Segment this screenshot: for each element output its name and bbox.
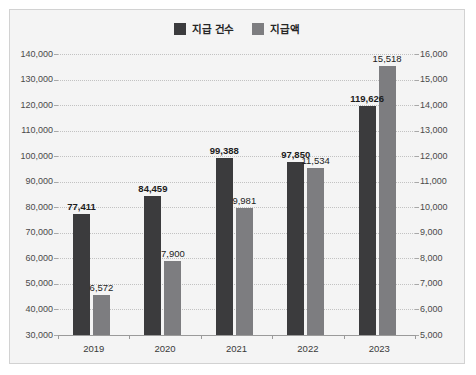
- bar-value-count-2020: 84,459: [138, 184, 167, 194]
- right-axis-tick-label: 11,000: [420, 177, 464, 186]
- x-axis-label-2023: 2023: [344, 343, 415, 354]
- plot-area: 140,00016,000130,00015,000120,00014,0001…: [58, 54, 415, 335]
- x-axis-label-2021: 2021: [201, 343, 272, 354]
- bar-count-2021[interactable]: [216, 158, 233, 335]
- left-axis-tick-label: 100,000: [9, 152, 53, 161]
- x-axis-label-2022: 2022: [272, 343, 343, 354]
- bar-value-amount-2019: 6,572: [90, 283, 114, 293]
- left-axis-tick-label: 30,000: [9, 331, 53, 340]
- bar-count-2022[interactable]: [287, 162, 304, 335]
- bar-count-2020[interactable]: [144, 196, 161, 335]
- chart-legend: 지급 건수지급액: [10, 21, 464, 36]
- legend-swatch-icon-0: [174, 23, 186, 35]
- x-axis-tickmark: [344, 335, 345, 339]
- right-axis-tickmark: [415, 207, 419, 208]
- bar-amount-2019[interactable]: [93, 295, 110, 335]
- x-axis-tickmark: [201, 335, 202, 339]
- bar-amount-2023[interactable]: [379, 66, 396, 335]
- x-axis-tickmark: [58, 335, 59, 339]
- axis-baseline: [58, 335, 415, 336]
- legend-label-0: 지급 건수: [192, 21, 234, 36]
- left-axis-tick-label: 80,000: [9, 203, 53, 212]
- x-axis-label-2020: 2020: [129, 343, 200, 354]
- bar-amount-2020[interactable]: [164, 261, 181, 335]
- right-axis-tick-label: 9,000: [420, 228, 464, 237]
- right-axis-tick-label: 5,000: [420, 331, 464, 340]
- left-axis-tick-label: 110,000: [9, 126, 53, 135]
- chart-container: 지급 건수지급액 140,00016,000130,00015,000120,0…: [9, 9, 465, 364]
- bar-amount-2021[interactable]: [236, 208, 253, 335]
- bar-count-2019[interactable]: [73, 214, 90, 335]
- right-axis-tick-label: 14,000: [420, 101, 464, 110]
- watermark-text: [446, 10, 454, 16]
- bar-group-2022: [272, 54, 343, 335]
- x-axis-label-2019: 2019: [58, 343, 129, 354]
- x-axis-tickmark: [129, 335, 130, 339]
- bar-value-amount-2022: 11,534: [302, 156, 330, 166]
- bar-value-count-2021: 99,388: [210, 146, 239, 156]
- bar-value-amount-2023: 15,518: [373, 54, 402, 64]
- legend-entry-0[interactable]: 지급 건수: [174, 21, 234, 36]
- left-axis-tick-label: 140,000: [9, 50, 53, 59]
- right-axis-tickmark: [415, 258, 419, 259]
- x-axis-tickmark: [415, 335, 416, 339]
- bar-value-count-2019: 77,411: [67, 202, 96, 212]
- right-axis-tickmark: [415, 156, 419, 157]
- legend-label-1: 지급액: [270, 21, 299, 36]
- left-axis-tick-label: 120,000: [9, 101, 53, 110]
- left-axis-tick-label: 50,000: [9, 279, 53, 288]
- bar-value-count-2023: 119,626: [350, 94, 384, 104]
- right-axis-tick-label: 8,000: [420, 254, 464, 263]
- right-axis-tickmark: [415, 105, 419, 106]
- right-axis-tickmark: [415, 182, 419, 183]
- right-axis-tick-label: 6,000: [420, 305, 464, 314]
- legend-entry-1[interactable]: 지급액: [252, 21, 299, 36]
- bar-value-amount-2021: 9,981: [232, 196, 256, 206]
- left-axis-tick-label: 60,000: [9, 254, 53, 263]
- right-axis-tickmark: [415, 309, 419, 310]
- left-axis-tick-label: 90,000: [9, 177, 53, 186]
- bar-group-2019: [58, 54, 129, 335]
- bar-group-2020: [129, 54, 200, 335]
- right-axis-tickmark: [415, 80, 419, 81]
- left-axis-tick-label: 70,000: [9, 228, 53, 237]
- left-axis-tick-label: 130,000: [9, 75, 53, 84]
- right-axis-tick-label: 15,000: [420, 75, 464, 84]
- right-axis-tick-label: 10,000: [420, 203, 464, 212]
- right-axis-tickmark: [415, 233, 419, 234]
- right-axis-tick-label: 16,000: [420, 50, 464, 59]
- right-axis-tickmark: [415, 54, 419, 55]
- right-axis-tick-label: 13,000: [420, 126, 464, 135]
- right-axis-tick-label: 7,000: [420, 279, 464, 288]
- left-axis-tick-label: 40,000: [9, 305, 53, 314]
- right-axis-tick-label: 12,000: [420, 152, 464, 161]
- right-axis-tickmark: [415, 131, 419, 132]
- bar-count-2023[interactable]: [359, 106, 376, 335]
- bar-value-amount-2020: 7,900: [161, 249, 185, 259]
- right-axis-tickmark: [415, 284, 419, 285]
- legend-swatch-icon-1: [252, 23, 264, 35]
- bar-amount-2022[interactable]: [307, 168, 324, 335]
- x-axis-tickmark: [272, 335, 273, 339]
